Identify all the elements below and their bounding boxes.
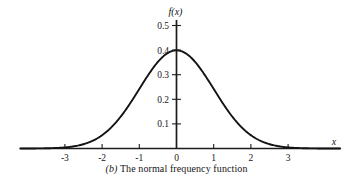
x-tick-label: -1	[135, 153, 143, 163]
y-tick-label: 0.5	[157, 21, 169, 31]
caption-tag: (b)	[106, 163, 118, 174]
figure-caption: (b) The normal frequency function	[0, 163, 353, 174]
y-tick-label: 0.1	[157, 119, 169, 129]
x-tick-label: 3	[286, 153, 291, 163]
normal-distribution-plot: -3-2-101230.10.20.30.40.5f(x)x	[0, 0, 353, 163]
x-axis-label: x	[331, 136, 337, 147]
x-tick-label: 2	[249, 153, 254, 163]
tick-labels-group: -3-2-101230.10.20.30.40.5f(x)x	[61, 6, 337, 163]
figure-normal-frequency-function: -3-2-101230.10.20.30.40.5f(x)x (b) The n…	[0, 0, 353, 181]
y-tick-label: 0.2	[157, 95, 169, 105]
x-tick-label: -3	[61, 153, 69, 163]
y-tick-label: 0.3	[157, 70, 169, 80]
x-tick-label: -2	[98, 153, 106, 163]
y-axis-label: f(x)	[169, 6, 184, 18]
x-tick-label: 0	[174, 153, 179, 163]
y-tick-label: 0.4	[157, 46, 169, 56]
caption-text: The normal frequency function	[120, 163, 248, 174]
x-tick-label: 1	[211, 153, 216, 163]
axes-group	[20, 20, 340, 149]
